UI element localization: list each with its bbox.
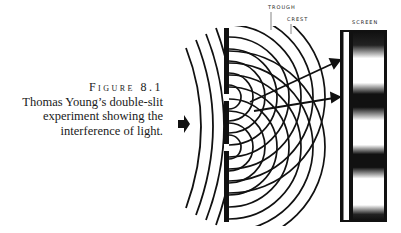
screen (340, 30, 387, 222)
crest-label: CREST (287, 16, 308, 22)
trough-label: TROUGH (267, 4, 296, 10)
screen-label: SCREEN (352, 19, 378, 25)
double-slit-diagram: TROUGH CREST SCREEN (0, 0, 401, 233)
right-arrow-icon (178, 115, 190, 133)
fringe-pattern (353, 32, 384, 220)
slit-barrier (224, 28, 229, 222)
